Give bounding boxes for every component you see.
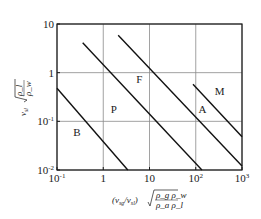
y-tick-label: 1 [49, 67, 55, 79]
y-tick-label: 10 [43, 18, 55, 30]
x-tick-label: 1 [101, 172, 107, 184]
x-axis-label: (vsg/vsl) ρ_g ρ_w ρ_a ρ_l [112, 190, 186, 210]
boundary-line [83, 43, 202, 170]
y-tick-label: 10-1 [37, 115, 54, 127]
region-label-f: F [136, 73, 142, 85]
x-tick-label: 10 [144, 172, 156, 184]
region-label-p: P [111, 103, 117, 115]
x-label-num: ρ_g ρ_w [155, 190, 186, 200]
region-label-m: M [215, 85, 225, 97]
region-labels: BPFAM [73, 73, 225, 138]
flow-regime-chart: BPFAM 10-1110102103 10110-110-2 vsl ρ_l … [0, 0, 261, 219]
x-tick-label: 102 [189, 172, 204, 184]
x-label-den: ρ_a ρ_l [155, 200, 183, 210]
x-tick-label: 10-1 [49, 172, 66, 184]
x-label-ratio: (vsg/vsl) [112, 195, 138, 206]
region-label-b: B [73, 126, 80, 138]
x-tick-label: 103 [235, 172, 250, 184]
y-label-den: ρ_w [23, 81, 33, 97]
y-label-v: vsl [18, 108, 29, 116]
region-label-a: A [199, 103, 207, 115]
y-axis-label: vsl ρ_l ρ_w [14, 79, 33, 116]
boundary-line [57, 88, 128, 170]
